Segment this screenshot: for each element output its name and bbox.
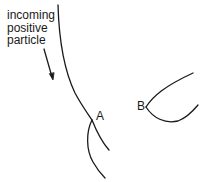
track-a-branch-right (92, 120, 109, 150)
track-b-branch-lower (146, 105, 198, 122)
track-b-branch-upper (146, 73, 193, 107)
vertex-label-b: B (137, 100, 145, 112)
particle-track-diagram (0, 0, 206, 182)
incoming-track (58, 5, 92, 120)
vertex-label-a: A (96, 110, 104, 122)
direction-arrow-icon (44, 49, 54, 80)
